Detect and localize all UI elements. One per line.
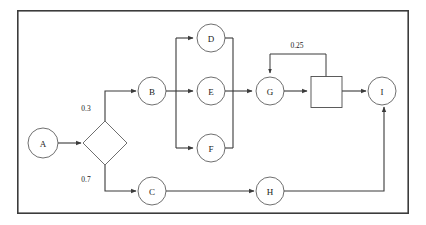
diagram-canvas: A B C D E F G H I 0.3 0.7 0.25 (0, 0, 426, 225)
node-h-label: H (267, 187, 274, 197)
node-i-label: I (381, 87, 384, 97)
edge-decision-to-c (105, 165, 136, 191)
node-f-label: F (208, 144, 213, 154)
node-c-label: C (149, 187, 155, 197)
edge-feedback-square-to-g (270, 54, 326, 77)
node-b-label: B (149, 87, 155, 97)
node-decision[interactable] (83, 121, 127, 165)
edge-label-feedback-probability: 0.25 (290, 41, 303, 50)
edge-decision-to-b (105, 91, 136, 121)
flowchart-diagram: A B C D E F G H I 0.3 0.7 0.25 (0, 0, 426, 225)
node-d-label: D (208, 34, 215, 44)
edge-label-upper-probability: 0.3 (81, 104, 91, 113)
node-e-label: E (208, 87, 214, 97)
node-g-label: G (267, 87, 274, 97)
edge-h-to-i (284, 107, 384, 191)
node-square[interactable] (311, 77, 342, 108)
node-a-label: A (40, 139, 47, 149)
edge-label-lower-probability: 0.7 (81, 175, 91, 184)
